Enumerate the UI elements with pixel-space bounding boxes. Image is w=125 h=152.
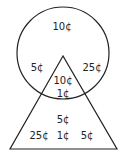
label-overlap-top: 10¢: [53, 76, 72, 86]
label-triangle-top: 5¢: [57, 115, 70, 125]
label-triangle-left: 25¢: [29, 131, 48, 141]
label-circle-right: 25¢: [82, 63, 101, 73]
label-overlap-bottom: 1¢: [57, 89, 70, 99]
label-triangle-right: 5¢: [81, 131, 94, 141]
label-circle-left: 5¢: [31, 63, 44, 73]
label-circle-top: 10¢: [52, 22, 71, 32]
label-triangle-middle: 1¢: [57, 131, 70, 141]
venn-diagram: 10¢ 5¢ 25¢ 10¢ 1¢ 5¢ 25¢ 1¢ 5¢: [0, 0, 125, 152]
